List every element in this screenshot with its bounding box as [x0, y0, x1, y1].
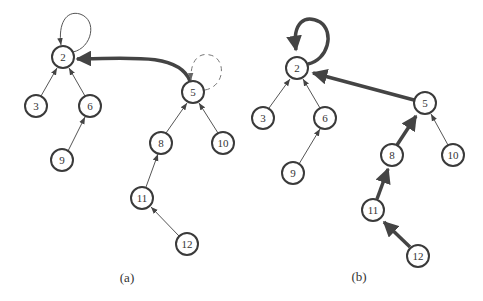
svg-text:9: 9 — [290, 167, 296, 179]
node-b-2: 2 — [286, 57, 308, 79]
svg-text:12: 12 — [182, 238, 193, 250]
edge-b-8-5 — [397, 116, 416, 145]
node-b-3: 3 — [252, 107, 274, 129]
node-b-5: 5 — [414, 92, 436, 114]
svg-text:10: 10 — [218, 137, 230, 149]
svg-text:3: 3 — [260, 112, 266, 124]
edge-b-5-2 — [313, 73, 414, 100]
edge-b-10-5 — [431, 114, 448, 145]
edge-a-6-2 — [69, 68, 85, 96]
edge-a-11-8 — [146, 154, 158, 187]
node-b-8: 8 — [381, 144, 403, 166]
edge-b-3-2 — [269, 79, 290, 108]
svg-text:11: 11 — [137, 192, 148, 204]
node-a-6: 6 — [79, 95, 101, 117]
edge-a-8-5 — [166, 103, 187, 133]
panel-b: 2 3 6 9 5 8 10 11 12 (b) — [252, 19, 464, 284]
node-b-12: 12 — [407, 245, 429, 267]
edge-a-3-2 — [41, 68, 57, 96]
svg-text:8: 8 — [389, 149, 395, 161]
panel-label-a: (a) — [120, 270, 134, 285]
svg-text:9: 9 — [59, 154, 65, 166]
edge-b-6-2 — [303, 79, 320, 108]
panel-label-b: (b) — [351, 269, 366, 284]
svg-text:5: 5 — [422, 97, 428, 109]
node-b-10: 10 — [442, 144, 464, 166]
node-a-12: 12 — [176, 233, 198, 255]
svg-text:2: 2 — [294, 62, 300, 74]
node-a-2: 2 — [52, 46, 74, 68]
edge-a-5-2 — [77, 58, 190, 81]
node-a-5: 5 — [182, 81, 204, 103]
edge-b-9-6 — [299, 129, 320, 164]
node-a-9: 9 — [51, 149, 73, 171]
edge-a-12-11 — [151, 207, 179, 236]
node-b-11: 11 — [362, 199, 384, 221]
node-b-6: 6 — [314, 107, 336, 129]
svg-text:12: 12 — [413, 250, 424, 262]
edge-a-10-5 — [199, 103, 218, 133]
svg-text:5: 5 — [190, 86, 196, 98]
edge-a-9-6 — [68, 117, 85, 151]
svg-text:10: 10 — [448, 149, 460, 161]
svg-text:6: 6 — [322, 112, 328, 124]
node-a-10: 10 — [212, 132, 234, 154]
panel-a: 2 3 6 9 5 8 10 11 12 (a) — [25, 13, 234, 285]
disjoint-set-forest-diagram: 2 3 6 9 5 8 10 11 12 (a) 2 3 6 9 5 8 — [0, 0, 483, 301]
svg-text:8: 8 — [158, 137, 164, 149]
svg-text:6: 6 — [87, 100, 93, 112]
node-b-9: 9 — [282, 162, 304, 184]
svg-text:3: 3 — [33, 100, 39, 112]
edge-b-12-11 — [384, 222, 410, 247]
edge-b-11-8 — [377, 169, 388, 199]
svg-text:11: 11 — [368, 204, 379, 216]
svg-text:2: 2 — [60, 51, 66, 63]
node-a-11: 11 — [131, 187, 153, 209]
node-a-3: 3 — [25, 95, 47, 117]
node-a-8: 8 — [150, 132, 172, 154]
